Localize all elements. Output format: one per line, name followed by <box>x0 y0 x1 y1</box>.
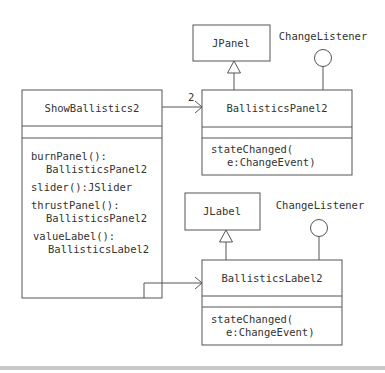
association-to-panel: 2 <box>162 91 202 113</box>
interface-change-listener-panel: ChangeListener <box>279 30 368 90</box>
class-jlabel-name: JLabel <box>203 205 241 217</box>
uml-diagram: JPanel ChangeListener ShowBallistics2 bu… <box>0 0 385 373</box>
lollipop-icon <box>311 220 328 237</box>
class-jpanel-name: JPanel <box>212 37 250 49</box>
operation-burn-panel-type: BallisticsPanel2 <box>46 163 147 175</box>
operation-thrust-panel-type: BallisticsPanel2 <box>46 212 147 224</box>
inheritance-triangle-icon <box>220 230 233 242</box>
page-bottom-rule <box>0 366 385 370</box>
class-ballistics-panel-name: BallisticsPanel2 <box>226 102 327 114</box>
operation-slider: slider():JSlider <box>31 181 132 193</box>
class-show-ballistics-box <box>22 90 162 298</box>
operation-burn-panel: burnPanel(): <box>31 150 107 162</box>
operation-state-changed: stateChanged( <box>211 313 293 325</box>
class-ballistics-panel: BallisticsPanel2 stateChanged( e:ChangeE… <box>202 90 352 175</box>
interface-change-listener-label: ChangeListener <box>276 199 365 260</box>
operation-value-label-type: BallisticsLabel2 <box>48 243 149 255</box>
interface-change-listener-label-label: ChangeListener <box>276 199 365 211</box>
class-ballistics-label: BallisticsLabel2 stateChanged( e:ChangeE… <box>202 260 342 345</box>
generalization-label-jlabel <box>220 230 233 260</box>
class-jlabel: JLabel <box>185 193 260 230</box>
multiplicity-label: 2 <box>188 91 194 103</box>
operation-state-changed-param: e:ChangeEvent) <box>227 156 316 168</box>
class-ballistics-label-name: BallisticsLabel2 <box>221 272 322 284</box>
class-show-ballistics: ShowBallistics2 burnPanel(): BallisticsP… <box>22 90 162 298</box>
interface-change-listener-panel-label: ChangeListener <box>279 30 368 42</box>
lollipop-icon <box>315 50 332 67</box>
operation-thrust-panel: thrustPanel(): <box>31 199 120 211</box>
generalization-panel-jpanel <box>228 61 241 90</box>
operation-value-label: valueLabel(): <box>33 230 115 242</box>
class-show-ballistics-name: ShowBallistics2 <box>45 102 140 114</box>
class-jpanel: JPanel <box>193 25 270 61</box>
operation-state-changed-param: e:ChangeEvent) <box>226 326 315 338</box>
inheritance-triangle-icon <box>228 61 241 73</box>
operation-state-changed: stateChanged( <box>211 143 293 155</box>
